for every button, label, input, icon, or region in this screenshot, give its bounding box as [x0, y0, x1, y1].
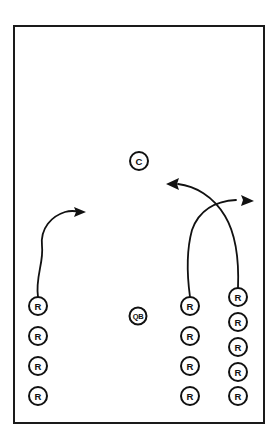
player-label: QB: [133, 312, 145, 321]
player-right-r-2[interactable]: R: [229, 313, 247, 331]
player-label: R: [187, 361, 194, 372]
player-label: R: [187, 331, 194, 342]
player-label: R: [235, 292, 242, 303]
player-left-r-3[interactable]: R: [29, 357, 47, 375]
field-border: [14, 26, 264, 423]
player-label: R: [235, 391, 242, 402]
player-right-r-4[interactable]: R: [229, 363, 247, 381]
player-label: R: [235, 317, 242, 328]
player-mid-r-3[interactable]: R: [181, 357, 199, 375]
player-label: R: [35, 391, 42, 402]
player-label: R: [235, 367, 242, 378]
player-left-r-2[interactable]: R: [29, 327, 47, 345]
player-label: R: [35, 301, 42, 312]
player-left-r-1[interactable]: R: [29, 297, 47, 315]
player-label: R: [35, 331, 42, 342]
player-right-r-5[interactable]: R: [229, 387, 247, 405]
player-mid-r-2[interactable]: R: [181, 327, 199, 345]
player-label: C: [136, 156, 143, 167]
player-quarterback[interactable]: QB: [130, 308, 147, 325]
player-label: R: [235, 342, 242, 353]
player-left-r-4[interactable]: R: [29, 387, 47, 405]
player-label: R: [187, 391, 194, 402]
play-diagram-root: R R R R QB C R R: [0, 0, 278, 442]
play-diagram-canvas: R R R R QB C R R: [0, 0, 278, 442]
player-right-r-1[interactable]: R: [229, 288, 247, 306]
player-right-r-3[interactable]: R: [229, 338, 247, 356]
player-mid-r-1[interactable]: R: [181, 297, 199, 315]
player-mid-r-4[interactable]: R: [181, 387, 199, 405]
player-label: R: [187, 301, 194, 312]
player-center[interactable]: C: [130, 152, 148, 170]
player-label: R: [35, 361, 42, 372]
